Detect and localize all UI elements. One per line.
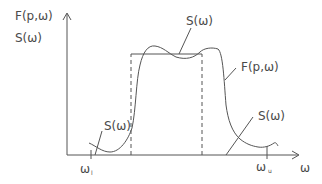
omega-upper-subscript: u xyxy=(268,167,272,174)
omega-lower-label: ω xyxy=(80,162,90,176)
s-top-label: S(ω) xyxy=(186,14,213,28)
s-left-label: S(ω) xyxy=(104,119,131,133)
x-axis-label: ω xyxy=(300,161,310,175)
s-right-label: S(ω) xyxy=(258,109,285,123)
y-axis-label-s: S(ω) xyxy=(15,31,42,45)
filter-response-diagram: F(p,ω) S(ω) S(ω) F(p,ω) S(ω) S(ω) ω l ω … xyxy=(0,0,322,184)
s-left-leader xyxy=(95,131,102,155)
f-right-label: F(p,ω) xyxy=(241,60,279,74)
y-axis-label-f: F(p,ω) xyxy=(15,9,53,23)
s-top-leader xyxy=(179,28,191,54)
omega-upper-label: ω xyxy=(256,160,266,174)
omega-lower-subscript: l xyxy=(91,169,93,176)
f-right-leader xyxy=(225,68,236,80)
